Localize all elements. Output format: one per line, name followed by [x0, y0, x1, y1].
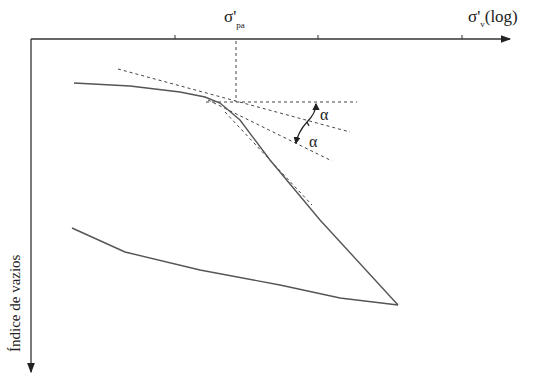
loading-curve	[74, 83, 398, 305]
unloading-curve	[72, 228, 398, 305]
x-axis-label: σ'v(log)	[468, 7, 518, 29]
preconsolidation-label: σ'pa	[224, 7, 245, 30]
alpha-label-1: α	[320, 106, 329, 123]
x-axis	[31, 35, 510, 39]
construction-lines	[118, 41, 357, 205]
casagrande-diagram: σ'v(log) σ'pa Índice de vazios α α	[0, 0, 541, 385]
tangent-line	[118, 69, 350, 132]
y-axis-label: Índice de vazios	[7, 254, 23, 352]
alpha-label-2: α	[309, 133, 318, 150]
